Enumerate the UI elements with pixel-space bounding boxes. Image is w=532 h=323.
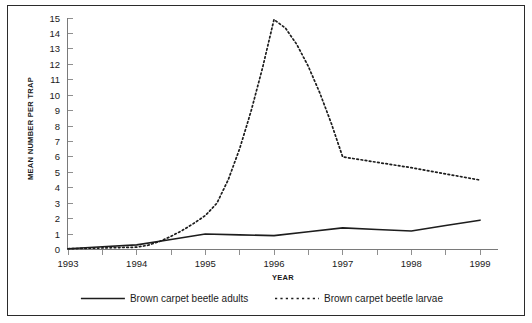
series-line-1 bbox=[68, 220, 480, 249]
y-tick-label: 4 bbox=[55, 182, 60, 193]
x-tick-label: 1997 bbox=[332, 258, 353, 269]
y-axis-ticks: 0123456789101112131415 bbox=[49, 13, 72, 256]
y-tick-label: 7 bbox=[55, 136, 60, 147]
x-tick-label: 1995 bbox=[195, 258, 216, 269]
y-tick-label: 6 bbox=[55, 151, 60, 162]
y-tick-label: 15 bbox=[49, 13, 60, 24]
data-series-group bbox=[68, 20, 480, 249]
y-axis-title: MEAN NUMBER PER TRAP bbox=[26, 77, 35, 180]
x-tick-label: 1996 bbox=[263, 258, 284, 269]
y-tick-label: 0 bbox=[55, 244, 60, 255]
x-tick-label: 1994 bbox=[126, 258, 147, 269]
y-tick-label: 8 bbox=[55, 121, 60, 132]
series-line-2 bbox=[68, 20, 480, 249]
y-tick-label: 3 bbox=[55, 198, 60, 209]
line-chart-svg: 0123456789101112131415 19931994199519961… bbox=[0, 0, 532, 323]
y-tick-label: 13 bbox=[49, 43, 60, 54]
y-tick-label: 1 bbox=[55, 229, 60, 240]
y-tick-label: 9 bbox=[55, 105, 60, 116]
plot-area: 0123456789101112131415 19931994199519961… bbox=[0, 0, 532, 323]
y-tick-label: 5 bbox=[55, 167, 60, 178]
y-tick-label: 14 bbox=[49, 28, 60, 39]
legend-label-1: Brown carpet beetle adults bbox=[130, 293, 248, 304]
x-axis-title: YEAR bbox=[272, 273, 294, 282]
y-tick-label: 11 bbox=[50, 74, 60, 85]
x-tick-label: 1998 bbox=[401, 258, 422, 269]
legend-label-2: Brown carpet beetle larvae bbox=[324, 293, 443, 304]
chart-figure: 0123456789101112131415 19931994199519961… bbox=[0, 0, 532, 323]
x-axis-ticks: 1993199419951996199719981999 bbox=[57, 250, 490, 270]
y-tick-label: 10 bbox=[49, 90, 60, 101]
y-tick-label: 12 bbox=[49, 59, 60, 70]
y-tick-label: 2 bbox=[55, 213, 60, 224]
x-tick-label: 1993 bbox=[57, 258, 78, 269]
x-tick-label: 1999 bbox=[469, 258, 490, 269]
chart-legend: Brown carpet beetle adultsBrown carpet b… bbox=[81, 293, 443, 304]
